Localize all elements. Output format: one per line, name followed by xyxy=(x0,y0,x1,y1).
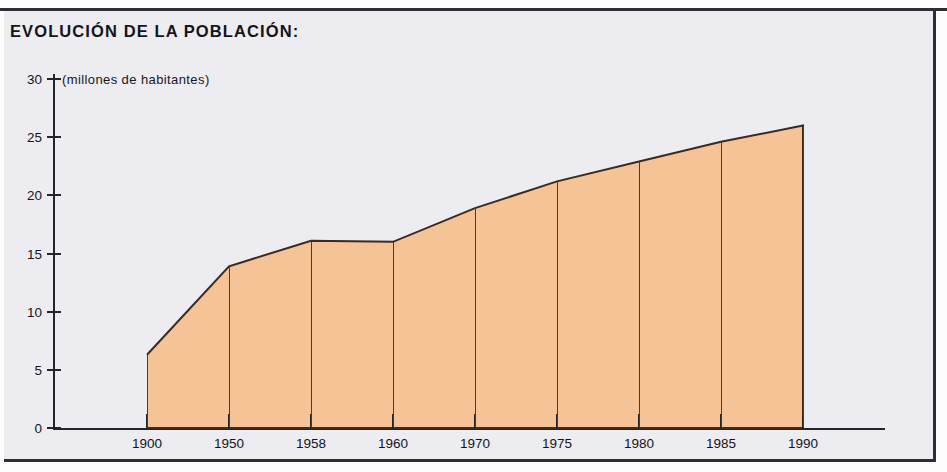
x-tick-label: 1970 xyxy=(460,436,490,451)
x-tick-label: 1985 xyxy=(706,436,736,451)
category-drop-line xyxy=(557,181,558,428)
x-tick-label: 1960 xyxy=(378,436,408,451)
y-tick-mark xyxy=(47,253,61,255)
y-tick-label: 15 xyxy=(8,246,42,261)
y-tick-mark xyxy=(47,427,61,429)
category-drop-line xyxy=(393,242,394,428)
y-tick-label: 10 xyxy=(8,304,42,319)
y-tick-label: 30 xyxy=(8,72,42,87)
plot-area: 051015202530 190019501958196019701975198… xyxy=(0,0,947,472)
y-tick-mark xyxy=(47,194,61,196)
x-tick-label: 1980 xyxy=(624,436,654,451)
y-tick-mark xyxy=(47,136,61,138)
y-tick-mark xyxy=(47,78,61,80)
category-drop-line xyxy=(639,162,640,428)
y-tick-label: 25 xyxy=(8,130,42,145)
y-tick-mark xyxy=(47,369,61,371)
area-series-svg xyxy=(0,0,947,472)
x-tick-label: 1975 xyxy=(542,436,572,451)
category-drop-line xyxy=(475,208,476,428)
y-tick-label: 5 xyxy=(8,362,42,377)
category-drop-line xyxy=(803,126,804,428)
category-drop-line xyxy=(229,266,230,428)
category-drop-line xyxy=(311,241,312,428)
figure-root: EVOLUCIÓN DE LA POBLACIÓN: (millones de … xyxy=(0,0,947,472)
x-tick-label: 1958 xyxy=(296,436,326,451)
y-tick-mark xyxy=(47,311,61,313)
category-drop-line xyxy=(721,142,722,428)
y-tick-label: 0 xyxy=(8,421,42,436)
x-tick-label: 1990 xyxy=(788,436,818,451)
y-tick-label: 20 xyxy=(8,188,42,203)
x-tick-label: 1950 xyxy=(214,436,244,451)
category-drop-line xyxy=(147,355,148,428)
x-tick-label: 1900 xyxy=(132,436,162,451)
